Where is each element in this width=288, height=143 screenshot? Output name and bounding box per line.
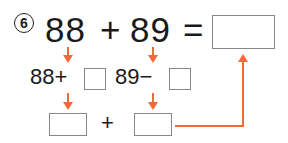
operand-89: 89 [130, 12, 171, 47]
connector-line-vertical [242, 60, 244, 127]
arrow-up-icon [238, 54, 248, 62]
step2-left-box[interactable] [49, 113, 87, 136]
step2-right-box[interactable] [134, 113, 172, 136]
arrow-down-icon [148, 55, 158, 63]
answer-box[interactable] [212, 15, 275, 49]
operand-88: 88 [45, 12, 86, 47]
step1-left-expr: 88+ [30, 66, 67, 88]
step2-plus-sign: + [101, 112, 114, 134]
step1-left-box[interactable] [84, 68, 106, 90]
step1-right-expr: 89− [115, 66, 152, 88]
connector-line-horizontal [175, 125, 244, 127]
equals-sign: = [183, 12, 204, 47]
step1-right-box[interactable] [169, 68, 191, 90]
arrow-down-icon [63, 102, 73, 110]
arrow-down-icon [63, 55, 73, 63]
arrow-down-icon [148, 102, 158, 110]
problem-number-badge: 6 [14, 13, 34, 33]
plus-sign: + [100, 12, 121, 47]
